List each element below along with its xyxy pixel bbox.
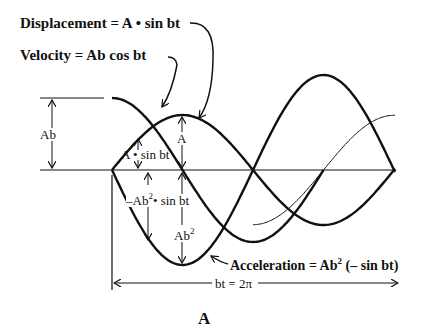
ab2-label: Ab2	[174, 229, 194, 242]
velocity-equation: Velocity = Ab cos bt	[20, 48, 146, 63]
a-peak-label: A	[177, 132, 186, 145]
asin-label: A • sin bt	[121, 148, 169, 161]
velocity-leader-hook	[168, 57, 177, 65]
acceleration-suffix: (– sin bt)	[342, 258, 398, 273]
acceleration-equation: Acceleration = Ab2 (– sin bt)	[230, 259, 398, 273]
displacement-equation: Displacement = A • sin bt	[20, 16, 180, 31]
acceleration-base: Acceleration = Ab	[230, 258, 338, 273]
ab2-exponent: 2	[190, 226, 195, 236]
period-label: bt = 2π	[215, 277, 252, 290]
velocity-leader-arrow	[162, 65, 177, 107]
neg-ab2-base: –Ab	[126, 193, 148, 208]
neg-ab2-suffix: • sin bt	[153, 193, 189, 208]
ab-label: Ab	[40, 128, 56, 141]
acceleration-leader-arrow	[211, 256, 228, 264]
panel-label: A	[198, 310, 210, 327]
neg-ab2-label: –Ab2• sin bt	[126, 194, 189, 207]
displacement-leader-arrow	[190, 23, 213, 118]
sinusoidal-motion-diagram: Displacement = A • sin bt Velocity = Ab …	[0, 0, 422, 335]
ab2-base: Ab	[174, 228, 190, 243]
